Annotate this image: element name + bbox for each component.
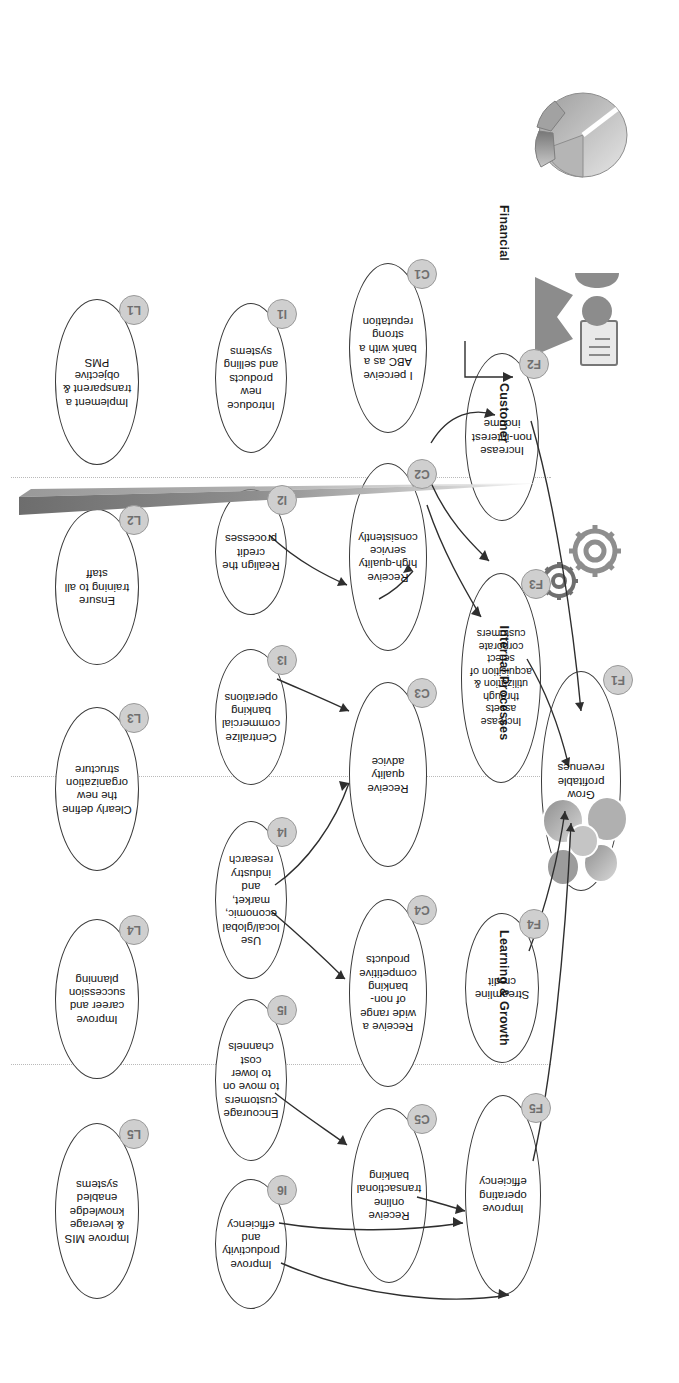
- node-C1-code: C1: [407, 259, 437, 289]
- node-F3-code: F3: [521, 569, 551, 599]
- node-L5-label: Improve MIS & leverage knowledge enabled…: [61, 1123, 133, 1299]
- node-C2-label: Receive high-quality service consistentl…: [354, 463, 421, 651]
- node-C5[interactable]: Receive online transactional banking C5: [351, 1108, 427, 1283]
- node-L4-label: Improve career and succession planning: [61, 919, 133, 1079]
- node-L4-code: L4: [119, 915, 149, 945]
- node-L3-label: Clearly define the new organization stru…: [61, 707, 133, 871]
- node-C2-code: C2: [407, 459, 437, 489]
- perspective-financial: Financial: [451, 173, 511, 293]
- node-I4-label: Use local/global economic, market, and i…: [220, 821, 282, 979]
- node-I4[interactable]: Use local/global economic, market, and i…: [215, 821, 287, 979]
- node-C3-code: C3: [407, 678, 437, 708]
- node-I1[interactable]: Introduce new products and selling syste…: [215, 303, 287, 453]
- node-I4-code: I4: [267, 817, 297, 847]
- node-I3-code: I3: [267, 645, 297, 675]
- node-F2-label: Increase non-interest income: [470, 353, 534, 521]
- node-F3-label: Increase assets through utilization & ac…: [467, 573, 536, 783]
- node-I6[interactable]: Improve productivity and efficiency I6: [215, 1179, 287, 1309]
- node-C3-label: Receive quality advice: [354, 682, 421, 867]
- node-F4[interactable]: Streamline credit F4: [465, 913, 539, 1063]
- node-F1-label: Grow profitable revenues: [547, 671, 616, 891]
- node-L1-label: Implement a transparent & objective PMS: [61, 299, 133, 465]
- node-C5-code: C5: [407, 1104, 437, 1134]
- node-C5-label: Receive online transactional banking: [356, 1108, 421, 1283]
- node-L5-code: L5: [119, 1119, 149, 1149]
- node-L5[interactable]: Improve MIS & leverage knowledge enabled…: [55, 1123, 139, 1299]
- node-I2-code: I2: [267, 485, 297, 515]
- node-C1-label: I perceive ABC as a bank with a strong r…: [354, 263, 421, 433]
- node-F1[interactable]: Grow profitable revenues F1: [541, 671, 621, 891]
- node-C4-code: C4: [407, 895, 437, 925]
- node-I1-code: I1: [267, 299, 297, 329]
- node-L1[interactable]: Implement a transparent & objective PMS …: [55, 299, 139, 465]
- customer-icon-anchor: [632, 186, 633, 187]
- node-F5-code: F5: [521, 1093, 551, 1123]
- node-I3[interactable]: Centralize commercial banking operations…: [215, 649, 287, 785]
- node-F5-label: Improve operating efficiency: [470, 1095, 535, 1295]
- node-F5[interactable]: Improve operating efficiency F5: [465, 1095, 541, 1295]
- node-C3[interactable]: Receive quality advice C3: [349, 682, 427, 867]
- node-C4-label: Receive a wide range of non-banking comp…: [354, 899, 421, 1087]
- pie-chart-icon: [519, 83, 639, 193]
- node-I5[interactable]: Encourage customers to move on to lower …: [215, 999, 287, 1161]
- node-I6-code: I6: [267, 1175, 297, 1205]
- node-L2-label: Ensure training to all staff: [61, 509, 133, 665]
- node-I5-code: I5: [267, 995, 297, 1025]
- perspective-financial-label: Financial: [497, 205, 511, 261]
- node-L2[interactable]: Ensure training to all staff L2: [55, 509, 139, 665]
- node-L4[interactable]: Improve career and succession planning L…: [55, 919, 139, 1079]
- node-F4-code: F4: [519, 909, 549, 939]
- node-C1[interactable]: I perceive ABC as a bank with a strong r…: [349, 263, 427, 433]
- node-L3-code: L3: [119, 703, 149, 733]
- node-F2[interactable]: Increase non-interest income F2: [465, 353, 539, 521]
- node-C2[interactable]: Receive high-quality service consistentl…: [349, 463, 427, 651]
- node-F3[interactable]: Increase assets through utilization & ac…: [461, 573, 541, 783]
- node-I2[interactable]: Realign the credit processes I2: [215, 489, 287, 615]
- node-I5-label: Encourage customers to move on to lower …: [220, 999, 282, 1161]
- node-C4[interactable]: Receive a wide range of non-banking comp…: [349, 899, 427, 1087]
- strategy-map-canvas: Improve operating efficiency F5 Streamli…: [0, 0, 679, 1383]
- node-L1-code: L1: [119, 295, 149, 325]
- node-L2-code: L2: [119, 505, 149, 535]
- node-F1-code: F1: [603, 665, 633, 695]
- node-L3[interactable]: Clearly define the new organization stru…: [55, 707, 139, 871]
- node-F2-code: F2: [519, 349, 549, 379]
